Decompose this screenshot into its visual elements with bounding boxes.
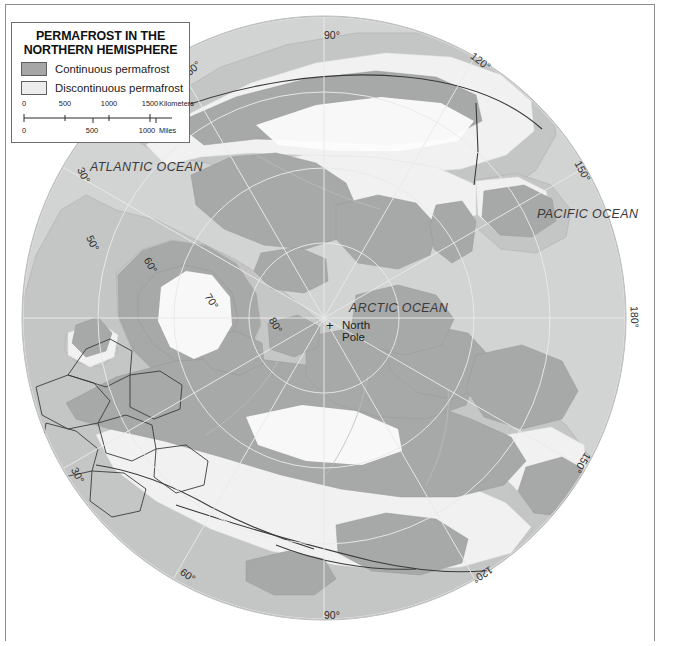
legend-swatch-discontinuous <box>21 81 47 95</box>
scale-km-tick-500: 500 <box>59 99 71 108</box>
scale-rule-graphic <box>23 113 175 123</box>
legend-label-continuous: Continuous permafrost <box>55 63 169 75</box>
scale-km-tick-1500: 1500 <box>142 99 158 108</box>
scale-km-tick-0: 0 <box>22 99 26 108</box>
scale-km-unit: Kilometers <box>159 99 194 108</box>
legend-label-discontinuous: Discontinuous permafrost <box>55 82 183 94</box>
scale-mi-tick-0: 0 <box>22 126 26 135</box>
legend-title-line1: PERMAFROST IN THE <box>19 29 182 43</box>
legend-title-block: PERMAFROST IN THE NORTHERN HEMISPHERE <box>19 29 182 57</box>
map-page: ARCTIC OCEAN ATLANTIC OCEAN PACIFIC OCEA… <box>0 0 673 646</box>
scale-mi-unit: Miles <box>159 126 176 135</box>
legend-item-continuous: Continuous permafrost <box>21 62 189 76</box>
scale-mi-tick-1000: 1000 <box>139 126 155 135</box>
scale-km-tick-1000: 1000 <box>101 99 117 108</box>
scale-bar: 0 500 1000 1500 Kilometers 0 500 1000 Mi… <box>21 99 183 139</box>
scale-mi-tick-500: 500 <box>86 126 98 135</box>
legend-swatch-continuous <box>21 62 47 76</box>
scale-miles-labels: 0 500 1000 Miles <box>21 126 183 137</box>
map-legend: PERMAFROST IN THE NORTHERN HEMISPHERE Co… <box>11 22 190 143</box>
scale-km-labels: 0 500 1000 1500 Kilometers <box>21 99 183 110</box>
north-pole-marker: + <box>326 318 334 333</box>
legend-item-discontinuous: Discontinuous permafrost <box>21 81 189 95</box>
legend-title-line2: NORTHERN HEMISPHERE <box>19 43 182 57</box>
